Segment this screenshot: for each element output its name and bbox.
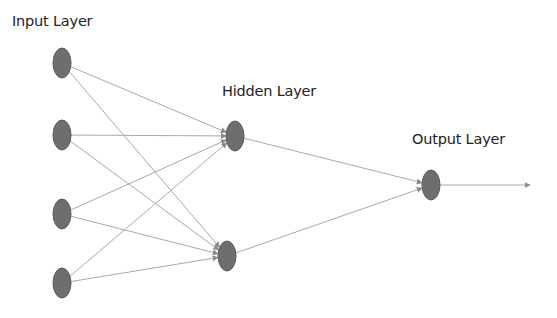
- input-node-i2: [53, 120, 71, 150]
- edge-i3-h1: [71, 140, 227, 210]
- output-layer-label: Output Layer: [412, 131, 505, 147]
- hidden-node-h1: [226, 121, 244, 151]
- edge-i4-h1: [70, 143, 227, 276]
- hidden-layer-label: Hidden Layer: [222, 83, 316, 99]
- output-node-o1: [422, 170, 440, 200]
- input-node-i4: [53, 268, 71, 298]
- hidden-node-h2: [218, 241, 236, 271]
- input-node-i1: [53, 48, 71, 78]
- edge-i2-h2: [70, 141, 219, 250]
- edge-i3-h2: [71, 216, 218, 253]
- edge-h1-o1: [244, 138, 422, 183]
- edge-h2-o1: [236, 188, 422, 253]
- input-layer-label: Input Layer: [12, 13, 92, 29]
- network-diagram: [0, 0, 557, 318]
- input-node-i3: [53, 199, 71, 229]
- edge-i4-h2: [71, 257, 218, 281]
- edge-i1-h1: [71, 67, 227, 133]
- edge-i2-h1: [71, 135, 226, 136]
